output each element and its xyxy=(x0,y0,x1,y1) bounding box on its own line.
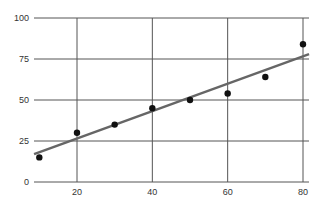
data-point xyxy=(187,97,193,103)
trend-line xyxy=(34,54,309,154)
y-tick-label: 25 xyxy=(19,136,29,146)
y-tick-label: 0 xyxy=(24,177,29,187)
x-axis-tick-labels: 20406080 xyxy=(72,187,308,197)
grid-lines xyxy=(34,18,309,182)
y-tick-label: 100 xyxy=(14,13,29,23)
y-tick-label: 50 xyxy=(19,95,29,105)
scatter-chart: 0255075100 20406080 xyxy=(0,0,325,210)
y-axis-tick-labels: 0255075100 xyxy=(14,13,29,187)
data-point xyxy=(36,154,42,160)
regression-line xyxy=(34,54,309,154)
x-tick-label: 60 xyxy=(223,187,233,197)
x-tick-label: 80 xyxy=(298,187,308,197)
x-tick-label: 20 xyxy=(72,187,82,197)
data-point xyxy=(111,121,117,127)
data-point xyxy=(224,90,230,96)
data-point xyxy=(74,130,80,136)
x-tick-label: 40 xyxy=(147,187,157,197)
data-point xyxy=(149,105,155,111)
data-point xyxy=(300,41,306,47)
y-tick-label: 75 xyxy=(19,54,29,64)
data-point xyxy=(262,74,268,80)
